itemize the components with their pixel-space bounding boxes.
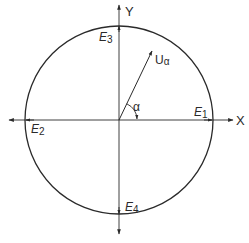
label-u-alpha-sub: α xyxy=(164,56,170,67)
label-u-alpha: Uα xyxy=(155,53,170,67)
diagram-canvas: Y X E1 E2 E3 E4 Uα α xyxy=(0,0,249,243)
label-u-alpha-base: U xyxy=(155,53,164,67)
label-e1: E1 xyxy=(194,105,208,120)
label-e4: E4 xyxy=(125,200,139,215)
x-axis-label: X xyxy=(236,113,245,128)
label-e2: E2 xyxy=(31,122,45,137)
label-e2-sub: 2 xyxy=(39,126,45,137)
label-alpha: α xyxy=(133,100,140,114)
label-e3: E3 xyxy=(99,30,113,45)
y-axis-label: Y xyxy=(125,4,134,19)
label-e1-sub: 1 xyxy=(202,109,208,120)
label-e3-sub: 3 xyxy=(107,34,113,45)
label-e4-sub: 4 xyxy=(133,204,139,215)
